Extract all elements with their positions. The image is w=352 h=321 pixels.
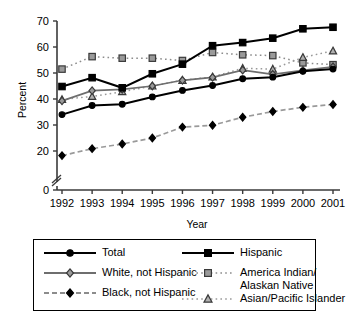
legend-marker-diamond-icon [66,289,73,297]
data-point-diamond [149,134,155,142]
data-point-circle [210,83,216,89]
legend-label: America Indian/Alaskan Native [240,266,316,291]
data-point-square [119,55,125,61]
series-line [62,51,333,100]
data-point-square [239,39,245,45]
chart-container: 0203040506070199219931994199519961997199… [0,0,352,321]
plot-area: 0203040506070199219931994199519961997199… [0,0,352,232]
x-axis-tick-label: 1999 [261,197,285,209]
data-point-square [209,49,215,55]
legend-item-total[interactable]: Total [42,246,125,260]
data-point-circle [180,88,186,94]
legend-label-line2: Alaskan Native [240,279,316,292]
data-point-square [300,26,306,32]
legend-marker-square-icon [180,266,236,280]
data-point-triangle [329,47,336,54]
series-hispanic [59,24,336,91]
data-point-square [270,52,276,58]
data-point-diamond [89,87,95,95]
legend-item-white-not-hispanic[interactable]: White, not Hispanic [42,266,197,280]
y-axis-tick-label: 50 [37,67,49,79]
x-axis-tick-label: 2000 [291,197,315,209]
legend-marker-square-icon [180,246,236,260]
legend-marker-triangle-icon [180,292,236,306]
data-point-triangle [299,54,306,61]
x-axis-tick-label: 1995 [140,197,164,209]
legend-marker-circle-icon [42,246,98,260]
series-white-not-hispanic [59,63,336,105]
data-point-diamond [270,108,276,116]
x-axis-tick-label: 1997 [200,197,224,209]
legend-item-america-indian[interactable]: America Indian/Alaskan Native [180,266,316,291]
y-axis-tick-label: 70 [37,15,49,27]
data-point-diamond [209,122,215,129]
data-point-square [179,61,185,67]
data-point-diamond [59,97,65,105]
data-point-square [119,85,125,91]
x-axis-title: Year [186,218,208,230]
legend-item-hispanic[interactable]: Hispanic [180,246,282,260]
data-point-diamond [119,140,125,148]
legend-marker-square-icon [205,270,212,277]
y-axis-tick-label: 60 [37,41,49,53]
x-axis-tick-label: 1996 [170,197,194,209]
data-point-diamond [89,145,95,153]
x-axis-tick-label: 1998 [230,197,254,209]
data-point-circle [240,76,246,82]
legend-marker-square-icon [205,250,212,257]
data-point-diamond [300,104,306,112]
data-point-square [149,71,155,77]
y-axis-title: Percent [16,82,28,118]
series-america-indian-alaskan-native [59,49,336,72]
x-axis-tick-label: 1992 [50,197,74,209]
chart-legend: TotalWhite, not HispanicBlack, not Hispa… [33,239,316,311]
series-black-not-hispanic [59,101,336,160]
series-line [62,67,333,101]
y-axis-tick-label: 20 [37,145,49,157]
legend-item-asian-pacific-islander[interactable]: Asian/Pacific Islander [180,292,345,306]
legend-item-black-not-hispanic[interactable]: Black, not Hispanic [42,286,196,300]
y-axis-tick-label: 30 [37,119,49,131]
x-axis-tick-label: 1993 [80,197,104,209]
data-point-diamond [330,101,336,109]
data-point-diamond [240,113,246,121]
data-point-square [209,43,215,49]
data-point-circle [330,66,336,72]
data-point-square [59,66,65,72]
legend-label: Hispanic [240,246,282,259]
data-point-square [59,83,65,89]
y-axis-tick-label: 40 [37,93,49,105]
data-point-square [89,74,95,80]
x-axis-tick-label: 2001 [321,197,345,209]
data-point-circle [59,112,65,118]
data-point-circle [270,74,276,80]
legend-marker-diamond-icon [42,266,98,280]
legend-marker-diamond-icon [66,269,73,277]
data-point-circle [119,101,125,107]
data-point-diamond [179,123,185,131]
legend-label: Asian/Pacific Islander [240,292,345,305]
legend-marker-circle-icon [67,250,73,256]
data-point-square [149,55,155,61]
data-point-diamond [59,152,65,160]
data-point-square [239,52,245,58]
y-axis-tick-label: 0 [43,184,49,196]
data-point-square [89,53,95,59]
series-line [62,69,333,115]
legend-marker-diamond-icon [42,286,98,300]
data-point-circle [89,103,95,109]
legend-label: Total [102,246,125,259]
data-point-square [270,35,276,41]
x-axis-tick-label: 1994 [110,197,134,209]
series-total [59,66,336,117]
axes: 0203040506070199219931994199519961997199… [16,15,345,230]
data-point-circle [149,94,155,100]
line-chart-svg: 0203040506070199219931994199519961997199… [0,0,352,232]
data-point-circle [300,68,306,74]
series-line [62,104,333,155]
data-point-square [330,24,336,30]
